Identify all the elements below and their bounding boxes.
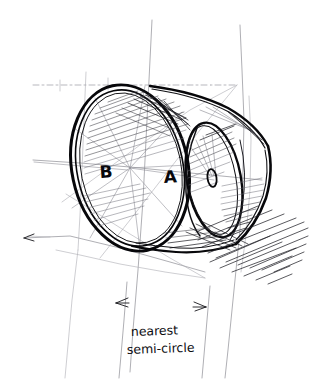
label-a: A [163, 166, 178, 187]
label-b: B [99, 161, 113, 182]
near-face-hatching [84, 91, 190, 226]
far-center-ellipse-mark [206, 168, 217, 187]
annotation-line-2: semi-circle [127, 340, 195, 357]
sketch-canvas: B A ne [0, 0, 311, 383]
dimension-markers [24, 234, 210, 378]
cast-shadow [186, 206, 308, 284]
arrow-left-icon [116, 298, 129, 307]
annotation-line-1: nearest [131, 322, 179, 339]
arrow-right-icon [193, 302, 206, 311]
cylinder-perspective-drawing: B A ne [0, 0, 311, 383]
